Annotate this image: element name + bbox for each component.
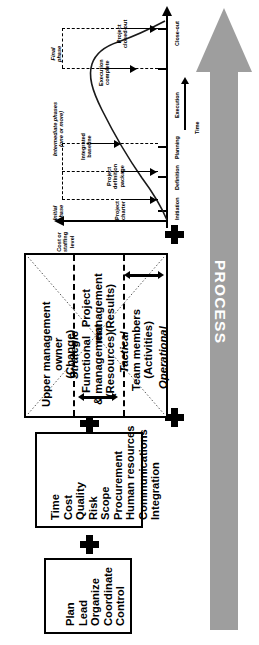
milestone-execution-complete: Execution complete — [98, 59, 111, 86]
knowledge-item: Quality — [74, 425, 87, 520]
function-item: Control — [114, 567, 127, 626]
function-item: Coordinate — [102, 567, 115, 626]
value-axis-label: Cost or staffing level — [56, 232, 75, 252]
function-item: Plan — [64, 567, 77, 626]
function-item: Organize — [89, 567, 102, 626]
operational-balance-arrow — [124, 271, 164, 280]
process-arrow-label: PROCESS — [211, 260, 229, 344]
knowledge-areas-box: Time Cost Quality Risk Scope Procurement… — [35, 432, 143, 528]
management-levels-box: Upper management owner (Change) Strategi… — [24, 253, 168, 418]
time-direction-arrow — [184, 84, 186, 130]
management-functions-box: Plan Lead Organize Coordinate Control — [44, 558, 132, 634]
phase-label-intermediate: Intermediate phases (one or more) — [52, 102, 65, 156]
knowledge-item: Time — [49, 425, 62, 520]
knowledge-item: Human resources — [124, 425, 137, 520]
arrow-project-definition-package — [122, 171, 156, 172]
plus-connector-knowledge-functions — [80, 535, 99, 554]
knowledge-item: Integration — [149, 425, 162, 520]
phase-label-final: Final phase — [50, 46, 63, 62]
knowledge-item: Scope — [99, 425, 112, 520]
label-team-members: Team members (Activities) — [130, 309, 154, 391]
process-arrow-head — [196, 8, 252, 72]
label-operational: Operational — [157, 326, 169, 389]
process-arrow-shaft — [210, 70, 238, 630]
knowledge-item: Communications — [137, 425, 150, 520]
knowledge-item: Cost — [62, 425, 75, 520]
label-project-management: Project management (Results) — [80, 273, 117, 343]
time-axis-label: Time — [194, 122, 200, 134]
arrow-project-charter — [122, 199, 156, 200]
value-axis-label-line2: staffing — [62, 232, 68, 252]
label-strategic: Strategic — [68, 331, 80, 379]
process-arrow: PROCESS — [196, 8, 252, 630]
milestone-project-charter: Project charter — [114, 201, 127, 220]
lifecycle-chart: Initiation Definition Planning Execution… — [18, 6, 183, 232]
management-functions-list: Plan Lead Organize Coordinate Control — [64, 567, 127, 626]
arrow-integrated-baseline — [90, 143, 120, 144]
knowledge-item: Procurement — [112, 425, 125, 520]
label-tactical: Tactical — [118, 331, 130, 373]
phase-label-initial: Initial phase — [52, 205, 65, 221]
value-axis-label-line3: level — [69, 232, 75, 252]
knowledge-item: Risk — [87, 425, 100, 520]
knowledge-areas-list: Time Cost Quality Risk Scope Procurement… — [49, 425, 162, 520]
milestone-project-definition-package: Project definition package — [106, 164, 125, 189]
milestone-project-closed-out: Project closed-out — [116, 20, 129, 48]
milestone-integrated-baseline: Integrated baseline — [80, 133, 93, 160]
function-item: Lead — [77, 567, 90, 626]
